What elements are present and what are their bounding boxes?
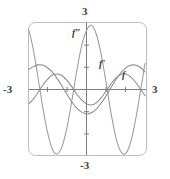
curve-label-f: f: [122, 70, 125, 80]
x-axis-min-label: -3: [3, 84, 12, 95]
x-axis-max-label: 3: [152, 84, 158, 95]
axes-group: [29, 23, 147, 156]
y-axis-max-label: 3: [82, 6, 88, 17]
graph-figure: 3 -3 -3 3 f″ f' f: [0, 0, 170, 179]
curve-label-f-prime: f': [99, 59, 105, 69]
curve-label-f-double-prime: f″: [72, 28, 81, 38]
y-axis-min-label: -3: [80, 160, 89, 171]
plot-canvas: [0, 0, 170, 179]
